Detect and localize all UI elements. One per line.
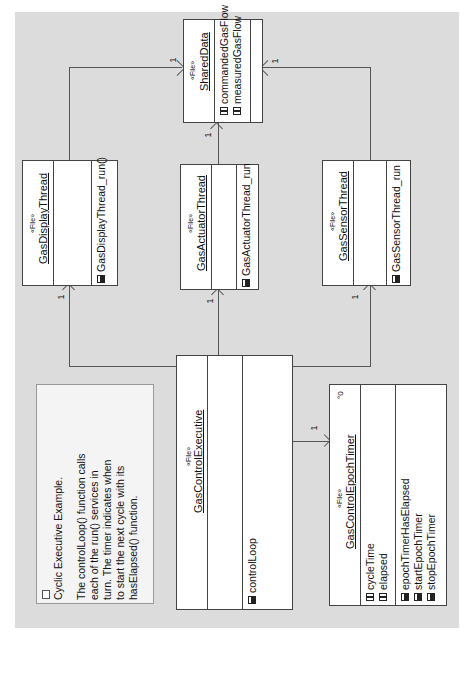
- assoc-display-shared-v: [69, 67, 70, 160]
- operation-item: GasSensorThread_run: [390, 165, 402, 283]
- multiplicity-label: 1: [203, 132, 213, 137]
- operation-item: stopEpochTimer: [425, 514, 437, 601]
- diagram-note[interactable]: Cyclic Executive Example. The controlLoo…: [36, 384, 154, 604]
- multiplicity-label: 1: [56, 294, 66, 299]
- operation-item: startEpochTimer: [412, 513, 424, 601]
- operation-item: GasActuatorThread_run: [240, 163, 252, 287]
- note-line: hasElapsed() function.: [127, 496, 140, 600]
- class-name: GasControlEpochTimer: [344, 434, 356, 549]
- operation-icon: [242, 279, 250, 287]
- note-line: turn. The timer indicates when: [101, 460, 114, 600]
- operation-icon: [427, 593, 435, 601]
- note-line: to start the next cycle with its: [114, 466, 127, 600]
- note-icon: [42, 590, 50, 599]
- multiplicity-label: 1: [309, 425, 319, 430]
- operation-icon: [414, 593, 422, 601]
- operation-icon: [248, 596, 256, 604]
- class-name: GasActuatorThread: [195, 175, 207, 271]
- class-gas-display-thread[interactable]: «File» GasDisplayThread GasDisplayThread…: [22, 160, 118, 286]
- assoc-display-shared-h: [69, 67, 182, 68]
- attribute-item: cycleTime: [364, 543, 376, 601]
- note-line: each of the run() services in: [88, 470, 101, 600]
- stereotype-label: «File»: [187, 214, 194, 233]
- multiplicity-label: 1: [205, 298, 215, 303]
- attribute-icon: [220, 107, 228, 115]
- stereotype-label: «File»: [189, 61, 196, 80]
- attribute-icon: [366, 593, 374, 601]
- multiplicity-label: 1: [168, 57, 178, 62]
- class-gas-actuator-thread[interactable]: «File» GasActuatorThread GasActuatorThre…: [180, 164, 259, 290]
- class-name: SharedData: [198, 32, 210, 91]
- assoc-exec-display-v: [69, 285, 70, 367]
- class-gas-sensor-thread[interactable]: «File» GasSensorThread GasSensorThread_r…: [322, 160, 411, 286]
- operation-item: GasDisplayThread_run(): [95, 157, 107, 283]
- assoc-exec-sensor-h: [292, 366, 370, 367]
- operation-item: controlLoop: [246, 538, 258, 604]
- stereotype-label: «File»: [185, 447, 192, 466]
- stereotype-label: «File»: [336, 489, 343, 508]
- class-shared-data[interactable]: «File» SharedData commandedGasFlow measu…: [183, 19, 263, 123]
- attribute-item: elapsed: [377, 553, 389, 601]
- class-name: GasSensorThread: [337, 171, 349, 261]
- stereotype-label: «File»: [329, 212, 336, 231]
- operation-icon: [401, 593, 409, 601]
- class-gas-control-executive[interactable]: «File» GasControlExecutive controlLoop: [176, 355, 293, 610]
- attribute-icon: [233, 107, 241, 115]
- multiplicity-label: 1: [270, 58, 280, 63]
- attribute-icon: [379, 593, 387, 601]
- assoc-exec-sensor-v: [370, 285, 371, 367]
- class-name: GasControlExecutive: [192, 410, 204, 513]
- assoc-sensor-shared-v: [370, 67, 371, 160]
- multiplicity-label: 1: [350, 294, 360, 299]
- operation-icon: [97, 275, 105, 283]
- operation-item: epochTimerHasElapsed: [399, 478, 411, 601]
- assoc-exec-display-h: [69, 366, 177, 367]
- assoc-sensor-shared-h: [262, 67, 370, 68]
- stereotype-label: «File»: [29, 214, 36, 233]
- note-line: The controlLoop() function calls: [75, 454, 88, 601]
- operation-icon: [392, 275, 400, 283]
- timer-icon: °0: [336, 391, 345, 399]
- attribute-item: measuredGasFlow: [231, 16, 243, 115]
- class-name: GasDisplayThread: [37, 173, 49, 264]
- attribute-item: commandedGasFlow: [218, 5, 230, 115]
- note-title: Cyclic Executive Example.: [52, 477, 65, 600]
- class-gas-control-epoch-timer[interactable]: °0 «File» GasControlEpochTimer cycleTime…: [329, 384, 447, 606]
